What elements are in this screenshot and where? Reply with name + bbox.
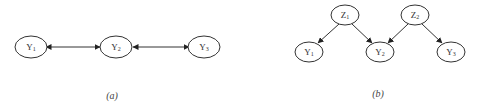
diagram-b: Z1 Z2 Y1 Y2 Y3 (b) [295, 5, 465, 100]
edge-b-z1-y2 [352, 24, 372, 43]
node-subscript: 3 [453, 51, 456, 57]
node-subscript: 2 [118, 46, 121, 52]
edge-b-z2-y3 [422, 24, 442, 43]
node-subscript: 1 [346, 14, 349, 20]
node-b-z1: Z1 [331, 5, 359, 25]
edge-b-z1-y1 [318, 24, 339, 43]
caption-b: (b) [372, 88, 384, 100]
node-subscript: 3 [206, 46, 209, 52]
caption-a: (a) [106, 90, 118, 102]
node-b-z2: Z2 [401, 5, 429, 25]
figure: Y1 Y2 Y3 (a) Z1 Z2 Y1 Y2 [0, 0, 479, 108]
node-b-y1: Y1 [295, 42, 323, 62]
node-subscript: 1 [311, 51, 314, 57]
node-a-y3: Y3 [188, 36, 220, 58]
diagram-a: Y1 Y2 Y3 (a) [15, 36, 220, 102]
node-subscript: 1 [33, 46, 36, 52]
node-b-y3: Y3 [437, 42, 465, 62]
node-b-y2: Y2 [366, 42, 394, 62]
node-a-y1: Y1 [15, 36, 47, 58]
node-subscript: 2 [382, 51, 385, 57]
node-a-y2: Y2 [100, 36, 132, 58]
node-subscript: 2 [416, 14, 419, 20]
edge-b-z2-y2 [388, 24, 408, 43]
